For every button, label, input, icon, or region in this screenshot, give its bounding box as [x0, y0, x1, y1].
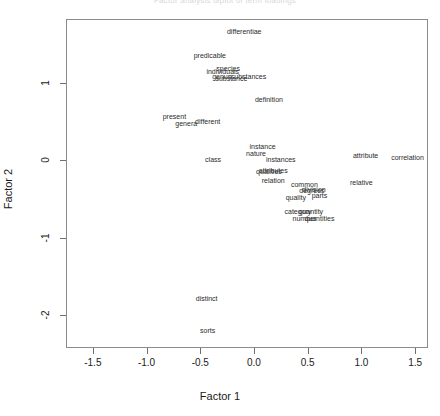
data-point-label: attribute	[353, 152, 378, 160]
x-tick-label: 0.0	[247, 357, 261, 368]
x-tick-label: -0.5	[192, 357, 209, 368]
data-point-label: relative	[350, 179, 373, 187]
data-point-label: class	[205, 156, 221, 164]
data-point-label: definition	[255, 96, 283, 104]
data-point-label: relation	[262, 177, 285, 185]
y-tick-mark	[60, 238, 66, 239]
data-point-label: genera	[175, 120, 197, 128]
x-tick-mark	[361, 348, 362, 354]
plot-area: differentiaepredicableindividualsspecies…	[66, 19, 428, 348]
x-tick-mark	[93, 348, 94, 354]
clipped-title-fragment: Factor analysis biplot of term loadings	[60, 0, 390, 5]
data-point-label: sorts	[200, 327, 215, 335]
y-tick-mark	[60, 315, 66, 316]
y-tick-mark	[60, 83, 66, 84]
x-tick-label: 1.5	[408, 357, 422, 368]
data-point-label: instances	[266, 156, 296, 164]
x-tick-label: -1.0	[138, 357, 155, 368]
x-tick-mark	[254, 348, 255, 354]
x-tick-label: -1.5	[84, 357, 101, 368]
data-point-label: predicable	[194, 52, 226, 60]
y-axis-title: Factor 2	[2, 159, 14, 219]
y-tick-label: -2	[40, 306, 51, 324]
data-point-label: parts	[312, 192, 328, 200]
data-point-label: different	[195, 118, 220, 126]
y-tick-label: 0	[40, 151, 51, 169]
x-tick-mark	[200, 348, 201, 354]
y-tick-label: 1	[40, 74, 51, 92]
y-tick-label: -1	[40, 229, 51, 247]
data-point-label: nature	[246, 150, 266, 158]
x-tick-mark	[147, 348, 148, 354]
data-point-label: distinct	[196, 295, 218, 303]
x-tick-label: 0.5	[301, 357, 315, 368]
data-point-label: correlation	[391, 154, 424, 162]
x-tick-label: 1.0	[354, 357, 368, 368]
data-point-label: quality	[286, 194, 306, 202]
data-point-label: attributes	[259, 167, 288, 175]
x-tick-mark	[415, 348, 416, 354]
factor-analysis-scatter-plot: Factor analysis biplot of term loadings …	[0, 0, 440, 416]
data-point-label: quantities	[304, 215, 334, 223]
data-point-label: differentiae	[227, 28, 262, 36]
x-axis-title: Factor 1	[0, 390, 440, 402]
x-tick-mark	[308, 348, 309, 354]
data-point-label: substances	[231, 73, 266, 81]
y-tick-mark	[60, 160, 66, 161]
